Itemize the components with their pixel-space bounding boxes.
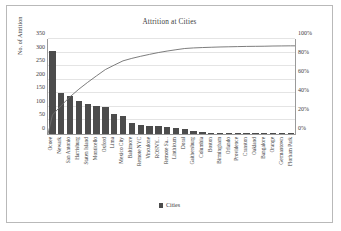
x-axis-tick-label: Florham Park — [288, 137, 293, 166]
x-axis-tick-label: Providence — [235, 137, 240, 161]
x-axis-tick-label: San Antonio — [66, 137, 71, 163]
x-axis-tick-label: Staten Island — [84, 137, 89, 165]
y-axis-tick-label: 350 — [36, 30, 45, 36]
x-axis-tick-label: Mexico City — [120, 137, 125, 164]
x-axis-tick-label: Newark — [58, 137, 63, 154]
category-slot: Birmingham — [215, 137, 224, 199]
x-axis-tick-label: Lima — [111, 137, 116, 148]
cumulative-line-series — [48, 39, 295, 134]
secondary-y-axis-tick-label: 20% — [298, 106, 309, 112]
x-axis-tick-label: Ocoee — [49, 137, 54, 151]
x-axis-tick-label: Doral — [182, 137, 187, 149]
y-axis-tick-label: 150 — [36, 84, 45, 90]
x-axis-tick-label: Orange — [270, 137, 275, 153]
x-axis-tick-label: Bangalore — [261, 137, 266, 159]
category-slot: ROSNY... — [153, 137, 162, 199]
category-slot: Linthicum — [171, 137, 180, 199]
secondary-y-axis-tick-label: 60% — [298, 68, 309, 74]
category-slot: Oxford — [100, 137, 109, 199]
legend-swatch-cities — [159, 203, 163, 208]
category-slot: Remote NYC — [136, 137, 145, 199]
y-axis-tick-label: 250 — [36, 57, 45, 63]
y-axis-tick-label: 50 — [39, 111, 45, 117]
x-axis-tick-label: ROSNY... — [155, 137, 160, 158]
x-axis-tick-label: Harrisburg — [75, 137, 80, 160]
y-axis-label: No. of Attrition — [16, 17, 23, 55]
secondary-y-axis-tick-label: 0% — [298, 125, 306, 131]
secondary-y-axis-tick-label: 80% — [298, 49, 309, 55]
category-slot: Staten Island — [82, 137, 91, 199]
category-slot: Doral — [180, 137, 189, 199]
category-slot: Ocoee — [47, 137, 56, 199]
category-slot: Columbia — [198, 137, 207, 199]
category-slot: Mexico City — [118, 137, 127, 199]
plot-area: 050100150200250300350 0%20%40%60%80%100% — [47, 39, 295, 135]
chart-frame: Attrition at Cities No. of Attrition 050… — [6, 5, 333, 223]
x-axis-tick-label: Germantown — [279, 137, 284, 165]
y-axis-tick-label: 0 — [42, 125, 45, 131]
x-axis-tick-label: Birmingham — [217, 137, 222, 164]
category-slot: Lima — [109, 137, 118, 199]
category-slot: Newark — [56, 137, 65, 199]
y-axis-tick-label: 300 — [36, 44, 45, 50]
category-slot: Orange — [268, 137, 277, 199]
x-axis-tick-label: Boston — [208, 137, 213, 152]
category-slot: Cranston — [242, 137, 251, 199]
category-slot: Bangalore — [260, 137, 269, 199]
category-slot: Germantown — [277, 137, 286, 199]
category-slot: Baltimore — [127, 137, 136, 199]
category-slot: San Antonio — [65, 137, 74, 199]
x-axis-tick-label: Gaithersburg — [191, 137, 196, 165]
legend-label-cities: Cities — [166, 202, 180, 208]
category-slot: Oakland — [251, 137, 260, 199]
secondary-y-axis — [295, 39, 296, 135]
category-slot: Remote Sa... — [162, 137, 171, 199]
category-slot: Boston — [206, 137, 215, 199]
x-axis-tick-label: Monticello — [93, 137, 98, 160]
category-slot: Monticello — [91, 137, 100, 199]
x-axis-tick-label: Oxford — [102, 137, 107, 152]
secondary-y-axis-tick-label: 100% — [298, 30, 312, 36]
category-slot: Vinculone — [144, 137, 153, 199]
x-axis-tick-label: Linthicum — [173, 137, 178, 159]
y-axis-tick-label: 100 — [36, 98, 45, 104]
category-slot: Orlando — [224, 137, 233, 199]
category-slot: Florham Park — [286, 137, 295, 199]
x-axis-categories: OcoeeNewarkSan AntonioHarrisburgStaten I… — [47, 137, 295, 199]
x-axis-tick-label: Vinculone — [146, 137, 151, 159]
chart-legend: Cities — [7, 202, 332, 208]
category-slot: Providence — [233, 137, 242, 199]
x-axis-tick-label: Cranston — [244, 137, 249, 156]
x-axis-tick-label: Remote Sa... — [164, 137, 169, 164]
category-slot: Harrisburg — [74, 137, 83, 199]
x-axis-tick-label: Remote NYC — [137, 137, 142, 166]
category-slot: Gaithersburg — [189, 137, 198, 199]
x-axis-tick-label: Orlando — [226, 137, 231, 154]
y-axis-tick-label: 200 — [36, 71, 45, 77]
chart-title: Attrition at Cities — [7, 18, 332, 26]
x-axis-tick-label: Baltimore — [129, 137, 134, 158]
x-axis-tick-label: Columbia — [199, 137, 204, 158]
x-axis-tick-label: Oakland — [253, 137, 258, 155]
secondary-y-axis-tick-label: 40% — [298, 87, 309, 93]
